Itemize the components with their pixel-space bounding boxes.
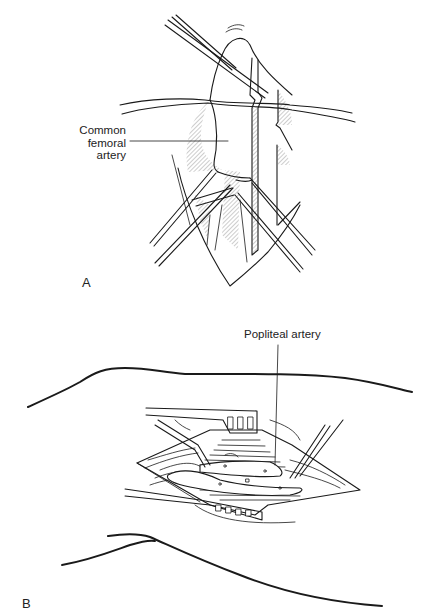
diagonal-loop-1a — [165, 25, 265, 98]
retractor-lower-tooth-4 — [246, 510, 251, 516]
right-instrument-2 — [295, 426, 330, 478]
vessel-loop-upper-2 — [122, 103, 355, 122]
incision-lower-skin-curve — [195, 505, 295, 523]
retractor-tooth-2 — [238, 417, 243, 429]
leg-outline-lower-left — [62, 541, 155, 565]
retractor-tooth-3 — [248, 417, 253, 429]
popliteal-artery-shape — [200, 461, 282, 476]
popliteal-label-leader-line — [275, 345, 278, 465]
panel-a-femoral-illustration: Common femoral artery A — [0, 0, 425, 300]
diagonal-loop-2a — [172, 17, 232, 70]
skin-fold-mark-2 — [226, 29, 242, 32]
retractor-lower-tooth-1 — [216, 505, 221, 511]
leg-outline-upper — [28, 368, 412, 407]
muscle-strand-2 — [215, 205, 222, 250]
panel-letter-a: A — [82, 275, 91, 290]
diagonal-loop-1b — [168, 20, 268, 93]
lower-loop-right-2a — [235, 195, 300, 272]
popliteal-drawing — [0, 300, 425, 615]
tissue-shading-right-lower — [277, 145, 290, 165]
popliteal-artery-label: Popliteal artery — [244, 328, 321, 341]
left-instrument-1 — [155, 425, 205, 467]
label-line-3: artery — [76, 149, 126, 162]
label-line-2: femoral — [76, 137, 126, 150]
diagonal-loop-2b — [176, 15, 236, 68]
lower-loop-right-1a — [250, 178, 315, 250]
leg-outline-lower-right — [108, 534, 382, 606]
panel-b-popliteal-illustration: Popliteal artery B — [0, 300, 425, 615]
skin-fold-mark — [228, 25, 244, 28]
muscle-strand-3 — [240, 200, 247, 262]
retractor-lower-tooth-3 — [236, 509, 241, 515]
label-line-1: Common — [76, 124, 126, 137]
tissue-shading-center — [222, 170, 240, 250]
tissue-shading-bottom-left — [195, 195, 210, 240]
vessel-branch-clip — [246, 479, 249, 482]
femoral-drawing — [0, 0, 425, 300]
retractor-lower-tooth-2 — [226, 507, 231, 513]
artery-bottom-band-2 — [236, 180, 252, 181]
right-instrument-3 — [300, 420, 343, 476]
panel-letter-b: B — [22, 596, 31, 611]
common-femoral-artery-label: Common femoral artery — [76, 124, 126, 162]
artery-left-wall — [210, 100, 218, 172]
retractor-tooth-1 — [228, 417, 233, 429]
tissue-shading-right-upper — [278, 90, 292, 125]
